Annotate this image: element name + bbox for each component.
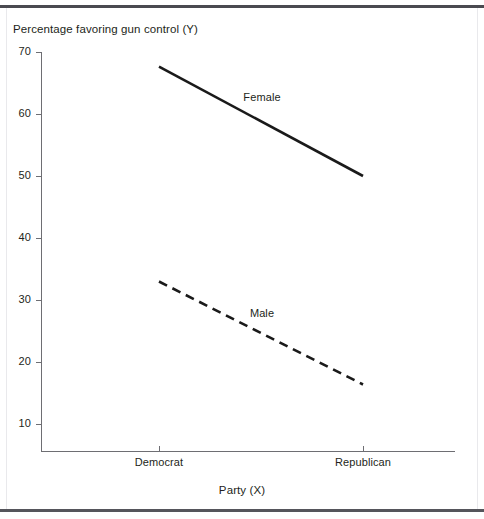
series-label-female: Female	[243, 91, 280, 103]
plot-area	[0, 0, 484, 519]
y-tick-label-50: 50	[1, 169, 31, 181]
series-label-male: Male	[250, 307, 274, 319]
y-tick-marks	[36, 53, 41, 425]
y-tick-label-30: 30	[1, 293, 31, 305]
y-tick-label-10: 10	[1, 417, 31, 429]
x-tick-marks	[160, 446, 364, 451]
series-line-male	[159, 282, 363, 385]
series-line-female	[159, 67, 363, 176]
y-tick-label-70: 70	[1, 45, 31, 57]
x-axis-title: Party (X)	[0, 484, 484, 496]
x-tick-label-democrat: Democrat	[135, 456, 183, 468]
y-tick-label-20: 20	[1, 355, 31, 367]
x-tick-label-republican: Republican	[335, 456, 391, 468]
chart-figure: Percentage favoring gun control (Y) 70 6…	[0, 0, 484, 519]
y-tick-label-60: 60	[1, 107, 31, 119]
y-tick-label-40: 40	[1, 231, 31, 243]
